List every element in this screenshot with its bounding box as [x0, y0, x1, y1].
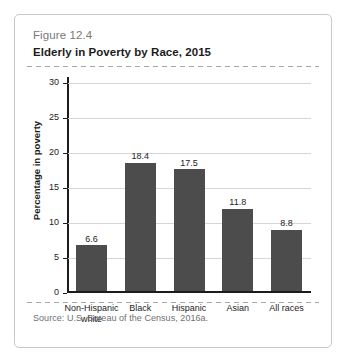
bar-value-label: 11.8 — [218, 197, 258, 207]
y-axis-label: Percentage in poverty — [31, 106, 42, 236]
y-tick-label: 10 — [35, 217, 59, 227]
gridline — [68, 118, 311, 119]
x-axis-category-line: All races — [255, 303, 319, 314]
bar-value-label: 6.6 — [71, 234, 111, 244]
gridline — [68, 83, 311, 84]
x-axis-line — [67, 291, 311, 293]
plot-region: 0510152025306.6Non-Hispanicwhite18.4Blac… — [67, 83, 311, 293]
figure-number: Figure 12.4 — [33, 29, 92, 41]
bar — [222, 209, 253, 292]
figure-card: Figure 12.4 Elderly in Poverty by Race, … — [14, 14, 332, 348]
y-tick-label: 5 — [35, 252, 59, 262]
bar — [174, 169, 205, 292]
y-tick-label: 30 — [35, 77, 59, 87]
gridline — [68, 153, 311, 154]
y-tick-mark — [63, 153, 67, 154]
bar — [125, 163, 156, 292]
divider-top — [27, 66, 319, 67]
y-tick-mark — [63, 188, 67, 189]
bar-value-label: 8.8 — [267, 218, 307, 228]
y-tick-mark — [63, 293, 67, 294]
y-tick-label: 0 — [35, 287, 59, 297]
y-tick-mark — [63, 83, 67, 84]
bar-value-label: 17.5 — [169, 158, 209, 168]
y-axis-line — [67, 77, 69, 293]
chart-area: Percentage in poverty 0510152025306.6Non… — [15, 77, 331, 302]
y-tick-mark — [63, 258, 67, 259]
y-tick-label: 25 — [35, 112, 59, 122]
x-axis-category-label: All races — [255, 303, 319, 314]
y-tick-label: 20 — [35, 147, 59, 157]
y-tick-label: 15 — [35, 182, 59, 192]
divider-bottom — [27, 302, 319, 303]
bar — [76, 245, 107, 291]
figure-title: Elderly in Poverty by Race, 2015 — [33, 46, 211, 58]
y-tick-mark — [63, 223, 67, 224]
source-note: Source: U.S. Bureau of the Census, 2016a… — [33, 313, 208, 323]
bar-value-label: 18.4 — [120, 151, 160, 161]
bar — [271, 230, 302, 292]
y-tick-mark — [63, 118, 67, 119]
